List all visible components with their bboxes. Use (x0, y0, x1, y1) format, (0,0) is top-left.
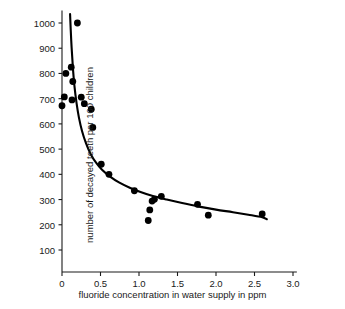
y-tick-label-700: 700 (0, 93, 55, 104)
data-point (146, 207, 153, 214)
x-tick-label-1: 1.0 (132, 278, 145, 289)
data-point (74, 20, 81, 27)
data-point (259, 211, 266, 218)
data-point (149, 198, 156, 205)
y-tick-label-600: 600 (0, 118, 55, 129)
trend-line (70, 14, 267, 219)
data-point (158, 193, 165, 200)
data-point (59, 102, 66, 109)
y-tick-label-200: 200 (0, 219, 55, 230)
data-point (98, 161, 105, 168)
x-tick-label-0-5: 0.5 (94, 278, 107, 289)
data-point (145, 217, 152, 224)
data-point (68, 64, 75, 71)
y-tick-label-800: 800 (0, 68, 55, 79)
data-point (131, 187, 138, 194)
x-axis-title: fluoride concentration in water supply i… (79, 289, 267, 300)
data-point (205, 212, 212, 219)
data-point (69, 97, 76, 104)
x-tick-label-3: 3.0 (286, 278, 299, 289)
y-tick-label-300: 300 (0, 194, 55, 205)
y-tick-label-400: 400 (0, 169, 55, 180)
y-tick-label-900: 900 (0, 43, 55, 54)
x-tick-label-2-5: 2.5 (248, 278, 261, 289)
data-point (61, 94, 68, 101)
y-tick-label-500: 500 (0, 144, 55, 155)
y-tick-label-1000: 1000 (0, 18, 55, 29)
data-point (62, 70, 69, 77)
x-tick-label-1-5: 1.5 (171, 278, 184, 289)
data-point (194, 201, 201, 208)
data-point (106, 171, 113, 178)
x-tick-label-0: 0 (59, 278, 64, 289)
chart-container: 1002003004005006007008009001000 00.51.01… (0, 0, 345, 309)
data-point (69, 78, 76, 85)
x-tick-label-2: 2.0 (209, 278, 222, 289)
axis-lines (62, 10, 297, 272)
y-axis-title: number of decayed teeth per 100 children (84, 67, 95, 243)
y-tick-label-100: 100 (0, 245, 55, 256)
